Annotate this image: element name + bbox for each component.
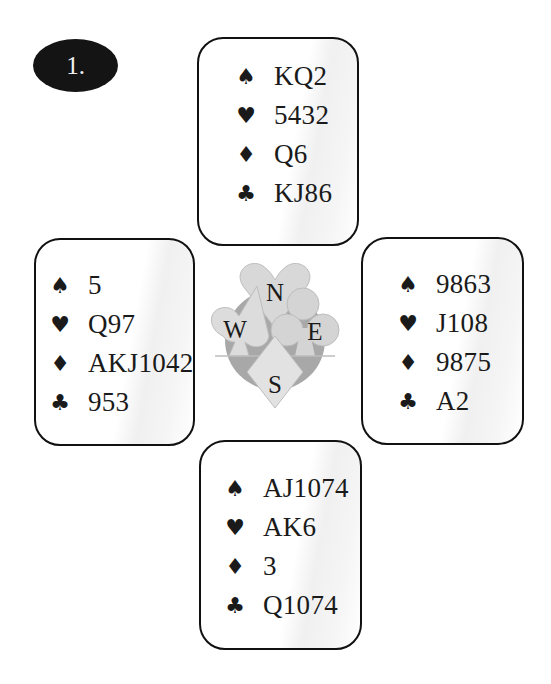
suit-row-hearts: ♥ J108: [396, 304, 488, 343]
suit-row-clubs: ♣ KJ86: [234, 174, 332, 213]
compass-rose: N W E S: [205, 258, 345, 408]
suit-row-spades: ♠ KQ2: [234, 57, 327, 96]
heart-icon: ♥: [396, 313, 420, 335]
diamond-icon: ♦: [48, 353, 72, 375]
club-icon: ♣: [223, 595, 247, 617]
cards-spades: 5: [88, 272, 102, 299]
suit-row-diamonds: ♦ 3: [223, 547, 277, 586]
suit-row-clubs: ♣ A2: [396, 382, 470, 421]
suit-row-diamonds: ♦ 9875: [396, 343, 491, 382]
diamond-icon: ♦: [234, 144, 258, 166]
cards-clubs: A2: [436, 388, 470, 415]
club-icon: ♣: [48, 392, 72, 414]
suit-row-hearts: ♥ 5432: [234, 96, 329, 135]
suit-row-hearts: ♥ AK6: [223, 508, 316, 547]
hand-east: ♠ 9863 ♥ J108 ♦ 9875 ♣ A2: [361, 237, 524, 445]
board-number: 1.: [66, 52, 85, 80]
cards-hearts: 5432: [274, 102, 329, 129]
suit-row-spades: ♠ 5: [48, 266, 102, 305]
spade-icon: ♠: [223, 478, 247, 500]
cards-clubs: KJ86: [274, 180, 332, 207]
cards-hearts: J108: [436, 310, 488, 337]
cards-spades: AJ1074: [263, 475, 349, 502]
diamond-icon: ♦: [223, 556, 247, 578]
heart-icon: ♥: [234, 105, 258, 127]
compass-west: W: [223, 316, 247, 344]
cards-diamonds: 9875: [436, 349, 491, 376]
suit-row-spades: ♠ AJ1074: [223, 469, 349, 508]
club-icon: ♣: [396, 391, 420, 413]
diamond-icon: ♦: [396, 352, 420, 374]
compass-north: N: [266, 279, 284, 307]
compass-east: E: [307, 318, 322, 346]
heart-icon: ♥: [48, 314, 72, 336]
cards-clubs: 953: [88, 389, 129, 416]
cards-diamonds: 3: [263, 553, 277, 580]
cards-hearts: Q97: [88, 311, 135, 338]
suit-row-spades: ♠ 9863: [396, 265, 491, 304]
spade-icon: ♠: [48, 275, 72, 297]
cards-diamonds: AKJ1042: [88, 350, 194, 377]
cards-spades: 9863: [436, 271, 491, 298]
spade-icon: ♠: [396, 274, 420, 296]
suit-row-hearts: ♥ Q97: [48, 305, 135, 344]
hand-north: ♠ KQ2 ♥ 5432 ♦ Q6 ♣ KJ86: [197, 37, 359, 246]
hand-west: ♠ 5 ♥ Q97 ♦ AKJ1042 ♣ 953: [34, 238, 195, 446]
hand-south: ♠ AJ1074 ♥ AK6 ♦ 3 ♣ Q1074: [199, 440, 362, 650]
suit-row-clubs: ♣ 953: [48, 383, 129, 422]
cards-clubs: Q1074: [263, 592, 338, 619]
cards-spades: KQ2: [274, 63, 327, 90]
compass-south: S: [268, 371, 282, 399]
board-number-badge: 1.: [33, 39, 118, 92]
cards-diamonds: Q6: [274, 141, 308, 168]
suit-row-diamonds: ♦ AKJ1042: [48, 344, 194, 383]
club-icon: ♣: [234, 183, 258, 205]
suit-row-clubs: ♣ Q1074: [223, 586, 338, 625]
spade-icon: ♠: [234, 66, 258, 88]
suit-row-diamonds: ♦ Q6: [234, 135, 308, 174]
cards-hearts: AK6: [263, 514, 316, 541]
heart-icon: ♥: [223, 517, 247, 539]
